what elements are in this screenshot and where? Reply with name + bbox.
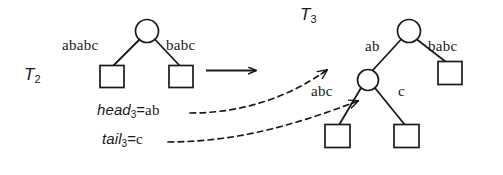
right-tree-edge-abc [339,88,361,125]
suffix-tree-transformation-figure: T2 ababc babc T3 ab babc abc c head3=ab … [0,0,503,175]
head-equals: = [136,101,145,118]
right-tree-name-letter: T [300,5,311,24]
left-tree-name-subscript: 2 [35,73,41,85]
tail-annotation-label: tail3=c [102,131,143,149]
right-tree-inner-edge-label-abc: abc [311,84,333,99]
left-tree-edge-ababc [113,40,140,67]
left-tree-graphics [100,20,193,88]
right-tree-name-subscript: 3 [311,13,317,25]
right-tree-edge-label-ab: ab [365,39,380,54]
head-connector-arrow [190,70,327,113]
tail-keyword: tail [102,130,122,147]
left-tree-name-letter: T [24,65,35,84]
right-tree-inner-edge-label-c: c [398,84,405,99]
left-tree-name-label: T2 [24,66,41,85]
right-tree-leaf-abc [325,125,350,148]
head-annotation-label: head3=ab [97,102,160,120]
left-tree-edge-label-ababc: ababc [62,38,98,53]
tail-value: c [136,131,143,147]
left-tree-leaf-babc [169,66,193,88]
left-tree-edge-label-babc: babc [166,38,196,53]
tail-equals: = [127,130,136,147]
right-tree-name-label: T3 [300,6,317,25]
right-tree-leaf-c [394,125,419,148]
diagram-canvas [0,0,503,175]
right-tree-edge-label-babc: babc [428,39,458,54]
head-keyword: head [97,101,131,118]
head-value: ab [145,102,160,118]
left-tree-leaf-ababc [100,66,124,88]
right-tree-leaf-babc [438,62,462,85]
